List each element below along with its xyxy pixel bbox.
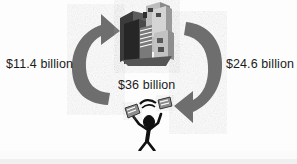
label-left-flow-amount: $11.4 billion bbox=[6, 57, 73, 71]
label-center-total-amount: $36 billion bbox=[118, 78, 175, 92]
banknote-right-icon bbox=[158, 97, 172, 109]
scan-artifact-band-upper bbox=[0, 151, 297, 159]
banknote-tossed-icon bbox=[140, 100, 156, 108]
label-right-flow-amount: $24.6 billion bbox=[226, 57, 294, 71]
banknote-left-icon bbox=[125, 104, 140, 118]
scan-artifact-band-lower bbox=[0, 159, 297, 164]
money-cycle-diagram: $11.4 billion $36 billion $24.6 billion bbox=[0, 0, 297, 164]
